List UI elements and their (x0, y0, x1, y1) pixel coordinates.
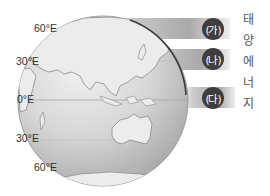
latitude-label-30-south: 30°E (16, 133, 39, 144)
latitude-label-60-south: 60°E (34, 162, 57, 173)
latitude-label-equator: 0°E (17, 94, 34, 105)
solar-energy-globe-figure: 60°E 30°E 0°E 30°E 60°E (가) (나) (다) 태 양 … (0, 0, 270, 196)
caption-char: 양 (243, 31, 254, 52)
latitude-label-30-north: 30°E (16, 56, 39, 67)
caption-char: 지 (243, 94, 254, 115)
badge-ga: (가) (202, 18, 224, 40)
caption-char: 에 (243, 52, 254, 73)
badge-da: (다) (202, 87, 224, 109)
badge-na: (나) (202, 48, 224, 70)
caption-char: 태 (243, 10, 254, 31)
latitude-label-60-north: 60°E (34, 23, 57, 34)
solar-energy-caption: 태 양 에 너 지 (240, 10, 256, 115)
caption-char: 너 (243, 73, 254, 94)
